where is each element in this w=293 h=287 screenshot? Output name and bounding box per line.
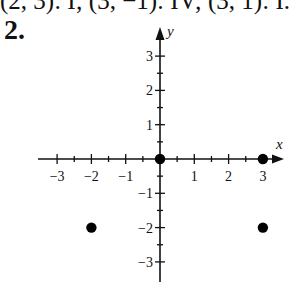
x-tick-label: −1 [118, 169, 133, 184]
plotted-points [86, 154, 268, 233]
data-point [86, 222, 96, 232]
data-point [155, 154, 165, 164]
y-tick-label: −1 [138, 186, 153, 201]
y-tick-label: −2 [138, 221, 153, 236]
x-axis-arrow-icon [272, 155, 284, 164]
y-tick-label: 2 [146, 83, 153, 98]
y-tick-label: −3 [138, 255, 153, 270]
y-tick-label: 3 [146, 49, 153, 64]
coordinate-plane: xy−3−2−1123321−1−2−3 [0, 0, 293, 287]
x-tick-label: −2 [84, 169, 99, 184]
data-point [258, 154, 268, 164]
tick-labels: xy−3−2−1123321−1−2−3 [50, 23, 283, 270]
y-axis-label: y [165, 23, 174, 39]
data-point [258, 222, 268, 232]
x-tick-label: 1 [191, 169, 198, 184]
y-axis-arrow-icon [156, 27, 165, 40]
x-axis-label: x [275, 136, 283, 152]
x-tick-label: 3 [259, 169, 266, 184]
y-tick-label: 1 [146, 118, 153, 133]
x-tick-label: −3 [50, 169, 65, 184]
x-tick-label: 2 [225, 169, 232, 184]
